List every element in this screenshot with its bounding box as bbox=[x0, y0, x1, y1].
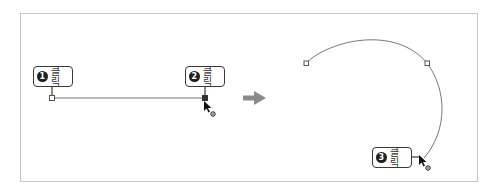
step-2-text: 클릭 bbox=[203, 67, 220, 87]
diagram-canvas bbox=[0, 0, 498, 195]
arc-start-handle bbox=[304, 61, 309, 66]
step-3-badge: 3 bbox=[376, 152, 387, 163]
step-1-label: 1 클릭 bbox=[33, 66, 73, 87]
right-arrow-icon bbox=[243, 91, 266, 105]
step-1-text: 클릭 bbox=[51, 67, 68, 87]
step-2-label: 2 클릭 bbox=[185, 66, 225, 87]
curved-segment bbox=[306, 40, 442, 158]
start-anchor-handle bbox=[50, 96, 55, 101]
arc-mid-handle bbox=[425, 61, 430, 66]
step-3-text: 클릭 bbox=[390, 148, 407, 168]
pen-cursor-icon bbox=[204, 101, 215, 116]
end-anchor-handle bbox=[203, 96, 208, 101]
step-2-badge: 2 bbox=[189, 71, 200, 82]
step-3-label: 3 클릭 bbox=[372, 147, 412, 168]
step-1-badge: 1 bbox=[37, 71, 48, 82]
